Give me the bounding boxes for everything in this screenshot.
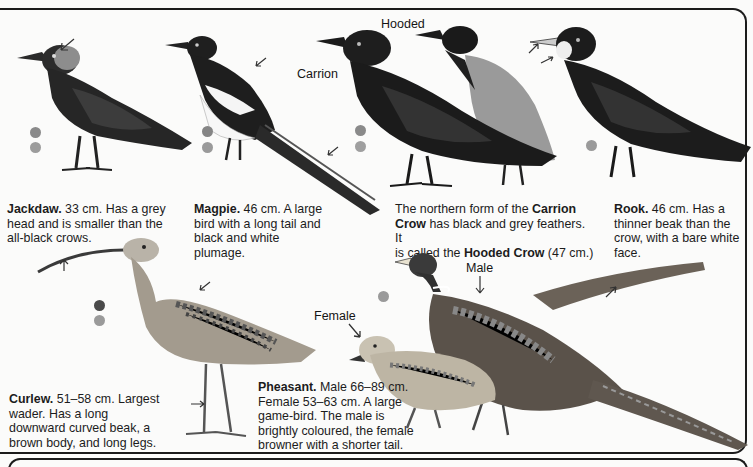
rook-arrow-icon-1 bbox=[527, 42, 541, 54]
carrion-crow-illustration bbox=[312, 26, 562, 196]
curlew-body-arrow-icon bbox=[197, 281, 211, 293]
carrion-label: Carrion bbox=[297, 67, 338, 81]
curlew-caption: Curlew. 51–58 cm. Largest wader. Has a l… bbox=[9, 392, 199, 450]
hooded-label: Hooded bbox=[381, 17, 425, 31]
magpie-marker-2 bbox=[202, 142, 213, 153]
curlew-marker-1 bbox=[94, 300, 105, 311]
female-label: Female bbox=[314, 309, 356, 323]
male-label: Male bbox=[466, 261, 493, 275]
jackdaw-marker-1 bbox=[30, 127, 41, 138]
male-arrow-icon bbox=[474, 275, 486, 295]
curlew-beak-arrow-icon bbox=[58, 258, 70, 272]
crow-marker-2 bbox=[355, 141, 366, 152]
rook-arrow-icon-2 bbox=[540, 55, 556, 65]
jackdaw-marker-2 bbox=[30, 142, 41, 153]
jackdaw-arrow-icon bbox=[58, 38, 76, 54]
pheasant-marker bbox=[378, 291, 389, 302]
pheasant-tail-arrow-icon bbox=[604, 285, 618, 299]
pheasant-caption: Pheasant. Male 66–89 cm. Female 53–63 cm… bbox=[258, 380, 458, 453]
rook-marker bbox=[586, 140, 597, 151]
crow-marker-1 bbox=[355, 125, 366, 136]
rook-illustration bbox=[526, 22, 753, 192]
magpie-arrow-icon bbox=[253, 57, 267, 69]
curlew-marker-2 bbox=[94, 315, 105, 326]
magpie-marker-1 bbox=[202, 126, 213, 137]
female-arrow-icon bbox=[347, 322, 363, 340]
bottom-panel-frame bbox=[8, 458, 748, 467]
